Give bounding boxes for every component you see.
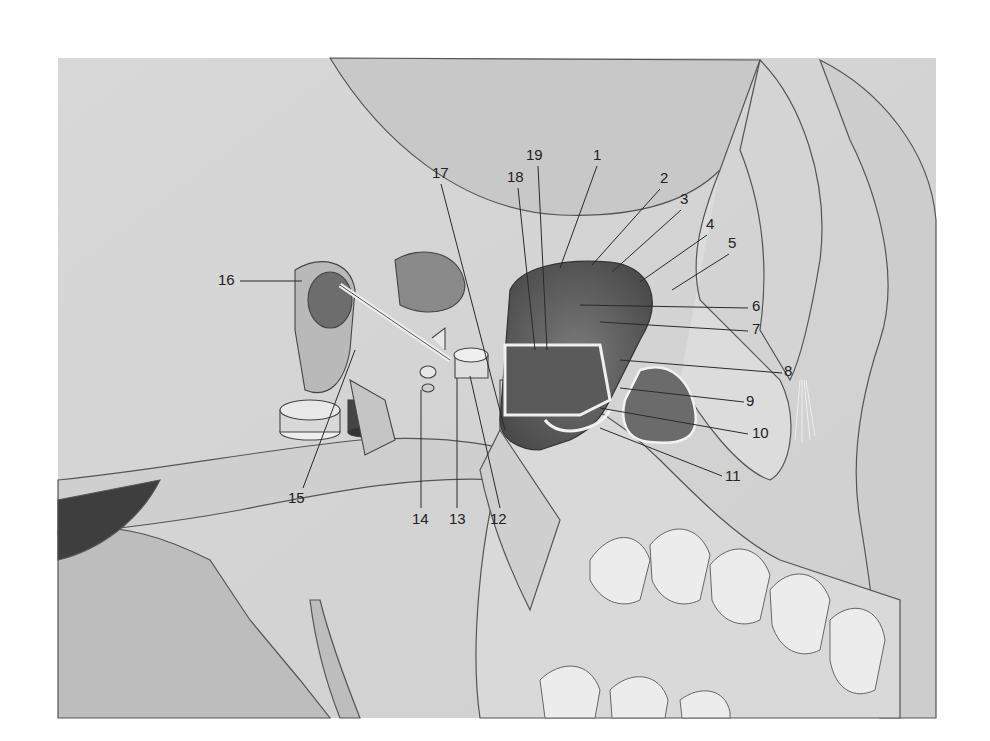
label-16: 16 xyxy=(218,271,235,288)
label-18: 18 xyxy=(507,168,524,185)
label-4: 4 xyxy=(706,215,714,232)
label-2: 2 xyxy=(660,169,668,186)
label-19: 19 xyxy=(526,146,543,163)
label-9: 9 xyxy=(746,392,754,409)
label-7: 7 xyxy=(752,320,760,337)
label-14: 14 xyxy=(412,510,429,527)
label-12: 12 xyxy=(490,510,507,527)
label-5: 5 xyxy=(728,234,736,251)
label-8: 8 xyxy=(784,362,792,379)
label-6: 6 xyxy=(752,297,760,314)
label-1: 1 xyxy=(593,146,601,163)
label-3: 3 xyxy=(680,190,688,207)
anatomical-illustration: 1 2 3 4 5 6 7 8 9 10 11 12 13 14 15 16 1… xyxy=(0,0,990,741)
label-17: 17 xyxy=(432,164,449,181)
label-11: 11 xyxy=(725,467,741,484)
label-10: 10 xyxy=(752,424,769,441)
label-15: 15 xyxy=(288,489,305,506)
label-13: 13 xyxy=(449,510,466,527)
